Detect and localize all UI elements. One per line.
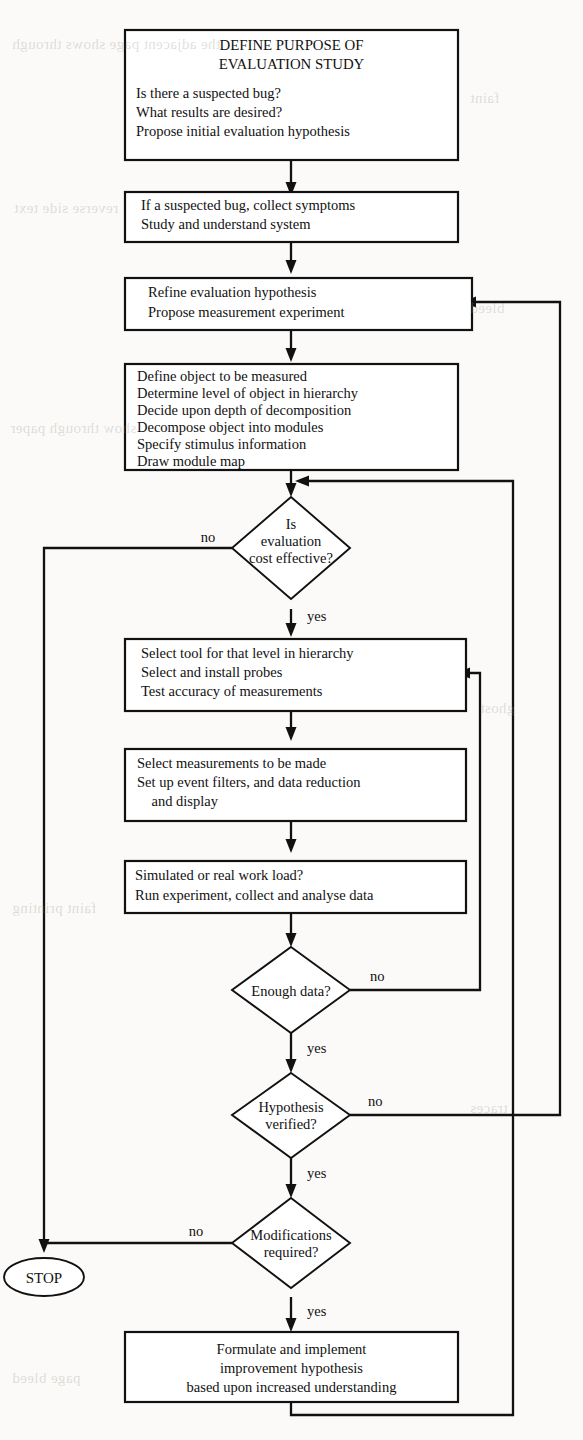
arrowhead-n2-n3 xyxy=(286,260,297,274)
arrowhead-d1-n5 xyxy=(286,623,297,637)
node-define-object[interactable]: Define object to be measured Determine l… xyxy=(125,364,458,470)
arrowhead-d1-stop xyxy=(39,1239,50,1253)
node-hypothesis-verified-line-1: Hypothesis xyxy=(258,1099,324,1115)
edge-label-modifications-yes: yes xyxy=(307,1303,327,1319)
node-define-purpose-line-3: Propose initial evaluation hypothesis xyxy=(136,123,350,139)
node-cost-effective-decision[interactable]: Is evaluation cost effective? xyxy=(232,497,350,599)
node-select-tool-line-1: Select tool for that level in hierarchy xyxy=(141,645,354,661)
node-define-purpose[interactable]: DEFINE PURPOSE OF EVALUATION STUDY Is th… xyxy=(125,30,458,160)
node-define-object-line-1: Define object to be measured xyxy=(137,368,308,384)
arrowhead-n6-n7 xyxy=(286,839,297,853)
node-collect-symptoms-line-2: Study and understand system xyxy=(141,216,311,232)
node-enough-data-decision[interactable]: Enough data? xyxy=(232,947,350,1033)
node-define-object-line-4: Decompose object into modules xyxy=(137,419,324,435)
node-run-experiment[interactable]: Simulated or real work load? Run experim… xyxy=(125,861,466,913)
edge-label-hypothesis-no: no xyxy=(368,1093,383,1109)
node-modifications-line-1: Modifications xyxy=(250,1227,332,1243)
node-hypothesis-verified-decision[interactable]: Hypothesis verified? xyxy=(232,1073,350,1158)
arrowhead-d2-d3 xyxy=(286,1059,297,1073)
flowchart-canvas: DEFINE PURPOSE OF EVALUATION STUDY Is th… xyxy=(0,0,583,1440)
node-select-tool-line-2: Select and install probes xyxy=(141,664,283,680)
arrowhead-n3-n4 xyxy=(286,348,297,362)
node-define-purpose-heading-1: DEFINE PURPOSE OF xyxy=(220,37,364,53)
node-define-object-line-2: Determine level of object in hierarchy xyxy=(137,385,359,401)
flowchart-page: DEFINE PURPOSE OF EVALUATION STUDY Is th… xyxy=(0,0,583,1440)
node-select-measurements[interactable]: Select measurements to be made Set up ev… xyxy=(125,749,466,821)
node-define-object-line-3: Decide upon depth of decomposition xyxy=(137,402,352,418)
arrowhead-n5-n6 xyxy=(286,727,297,741)
edge-label-modifications-no: no xyxy=(189,1223,204,1239)
node-refine-hypothesis[interactable]: Refine evaluation hypothesis Propose mea… xyxy=(125,278,472,330)
node-modifications-decision[interactable]: Modifications required? xyxy=(232,1198,350,1288)
edge-label-cost-effective-no: no xyxy=(201,529,216,545)
node-select-tool[interactable]: Select tool for that level in hierarchy … xyxy=(125,639,466,711)
node-formulate-improvement-line-1: Formulate and implement xyxy=(217,1341,367,1357)
arrowhead-n7-d2 xyxy=(286,933,297,947)
node-enough-data-line-1: Enough data? xyxy=(251,983,330,999)
node-modifications-line-2: required? xyxy=(264,1244,319,1260)
node-cost-effective-line-1: Is xyxy=(286,516,297,532)
edge-label-enough-data-no: no xyxy=(370,968,385,984)
node-stop-label: STOP xyxy=(26,1270,62,1286)
node-cost-effective-line-2: evaluation xyxy=(261,533,322,549)
arrowhead-n8-d1 xyxy=(295,476,309,487)
node-refine-hypothesis-line-2: Propose measurement experiment xyxy=(148,304,345,320)
arrowhead-d3-d4 xyxy=(286,1184,297,1198)
node-select-tool-line-3: Test accuracy of measurements xyxy=(141,683,323,699)
node-stop-terminator[interactable]: STOP xyxy=(4,1258,84,1296)
node-collect-symptoms-line-1: If a suspected bug, collect symptoms xyxy=(141,197,356,213)
node-refine-hypothesis-line-1: Refine evaluation hypothesis xyxy=(148,284,317,300)
node-define-object-line-5: Specify stimulus information xyxy=(137,436,307,452)
node-select-measurements-line-2: Set up event filters, and data reduction xyxy=(137,774,361,790)
edge-label-cost-effective-yes: yes xyxy=(307,608,327,624)
node-select-measurements-line-1: Select measurements to be made xyxy=(137,755,326,771)
edge-d2-n5 xyxy=(350,673,480,990)
node-collect-symptoms[interactable]: If a suspected bug, collect symptoms Stu… xyxy=(125,192,458,242)
node-cost-effective-line-3: cost effective? xyxy=(249,550,333,566)
node-modifications-diamond xyxy=(232,1198,350,1288)
node-define-purpose-line-1: Is there a suspected bug? xyxy=(136,85,281,101)
node-formulate-improvement-line-3: based upon increased understanding xyxy=(187,1379,397,1395)
node-run-experiment-line-1: Simulated or real work load? xyxy=(135,867,303,883)
arrowhead-d4-n8 xyxy=(286,1318,297,1332)
node-hypothesis-verified-line-2: verified? xyxy=(265,1116,317,1132)
node-define-object-line-6: Draw module map xyxy=(137,453,245,469)
node-define-purpose-heading-2: EVALUATION STUDY xyxy=(219,56,365,72)
node-define-purpose-line-2: What results are desired? xyxy=(136,104,282,120)
node-select-measurements-line-3: and display xyxy=(137,793,219,809)
node-run-experiment-line-2: Run experiment, collect and analyse data xyxy=(135,887,374,903)
node-formulate-improvement[interactable]: Formulate and implement improvement hypo… xyxy=(125,1332,458,1402)
edge-label-enough-data-yes: yes xyxy=(307,1040,327,1056)
arrowhead-n4-d1 xyxy=(286,483,297,497)
edge-label-hypothesis-yes: yes xyxy=(307,1165,327,1181)
node-formulate-improvement-line-2: improvement hypothesis xyxy=(220,1360,363,1376)
